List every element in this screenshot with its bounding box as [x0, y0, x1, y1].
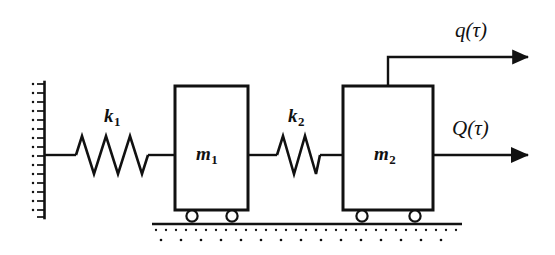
- wheels-m2: [356, 210, 420, 221]
- wheels-m1: [186, 210, 237, 221]
- mass-m2-label: m2: [374, 144, 396, 167]
- spring-k2-label: k2: [288, 106, 304, 129]
- ground-surface: [152, 224, 462, 241]
- spring-k2: [248, 136, 343, 174]
- displacement-arrow-q: [388, 57, 528, 86]
- displacement-label-q: q(τ): [455, 20, 487, 41]
- spring-k1-label: k1: [104, 106, 120, 129]
- mass-m1-label: m1: [196, 144, 218, 167]
- spring-k1: [45, 136, 175, 174]
- force-label-Q: Q(τ): [452, 118, 489, 139]
- mass-spring-diagram: k1 k2 m1 m2 q(τ) Q(τ): [0, 0, 555, 255]
- fixed-support-wall: [32, 82, 45, 218]
